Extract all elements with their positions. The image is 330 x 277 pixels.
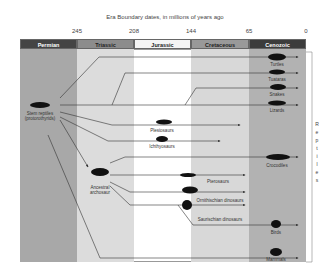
label-lizards: Lizards xyxy=(270,108,285,113)
phylogeny-lines xyxy=(0,0,330,277)
label-stem-reptiles-l2: (protorothyrids) xyxy=(25,116,56,121)
label-plesiosaurs: Plesiosaurs xyxy=(150,128,173,133)
label-tuataras: Tuataras xyxy=(268,77,286,82)
label-pterosaurs: Pterosaurs xyxy=(207,179,229,184)
label-ornithischian: Ornithischian dinosaurs xyxy=(196,198,243,203)
reptiles-bracket-label: Reptiles xyxy=(314,120,320,184)
label-birds: Birds xyxy=(271,230,281,235)
animal-silhouettes xyxy=(30,54,290,257)
label-crocodiles: Crocodiles xyxy=(266,163,287,168)
label-snakes: Snakes xyxy=(269,92,284,97)
label-mammals: Mammals xyxy=(266,257,286,262)
label-saurischian: Saurischian dinosaurs xyxy=(198,217,242,222)
label-ichthyosaurs: Ichthyosaurs xyxy=(149,144,175,149)
label-archosaur-l2: archosaur xyxy=(90,190,110,195)
label-turtles: Turtles xyxy=(270,62,284,67)
